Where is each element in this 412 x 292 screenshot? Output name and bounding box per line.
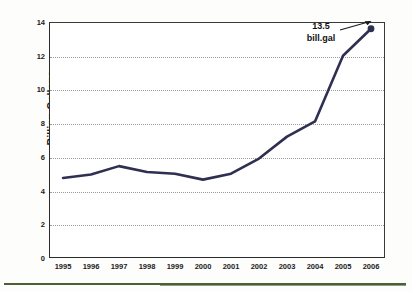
annotation-arrow-icon bbox=[340, 18, 382, 40]
line-chart-figure: Billion Gallons 02468101214 13.5 bill.ga… bbox=[0, 0, 412, 292]
data-series-line bbox=[49, 22, 385, 258]
y-axis-tick-label: 14 bbox=[25, 18, 45, 27]
y-axis-tick-label-group: 02468101214 bbox=[22, 22, 45, 258]
x-axis-tick-label-group: 1995199619971998199920002001200220032004… bbox=[49, 262, 385, 278]
annotation-unit: bill.gal bbox=[296, 32, 346, 44]
series-polyline bbox=[63, 29, 371, 180]
footer-rule-highlight bbox=[160, 285, 406, 286]
x-axis-tick-label: 2006 bbox=[354, 262, 388, 271]
y-axis-tick-label: 12 bbox=[25, 51, 45, 60]
y-axis-tick-label: 2 bbox=[25, 220, 45, 229]
y-axis-tick-label: 10 bbox=[25, 85, 45, 94]
y-axis-tick-label: 0 bbox=[25, 254, 45, 263]
y-axis-tick-label: 6 bbox=[25, 152, 45, 161]
annotation-callout: 13.5 bill.gal bbox=[296, 20, 346, 44]
y-axis-tick-label: 4 bbox=[25, 186, 45, 195]
annotation-value: 13.5 bbox=[296, 20, 346, 32]
y-axis-tick-label: 8 bbox=[25, 119, 45, 128]
